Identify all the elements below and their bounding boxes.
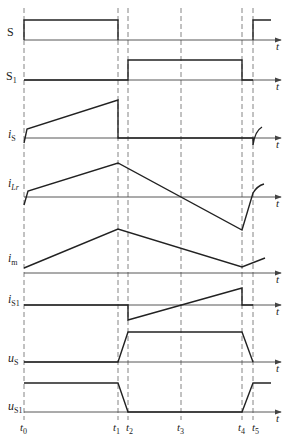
time-label-t4: t4 — [238, 421, 245, 436]
signal-S: S t — [7, 20, 281, 52]
time-label-t1: t1 — [113, 421, 120, 436]
time-label-t2: t2 — [126, 421, 133, 436]
axis-t-label: t — [276, 305, 280, 317]
waveform-S1 — [24, 60, 253, 80]
axis-t-label: t — [276, 40, 280, 52]
label-uS: uS — [8, 351, 18, 367]
axis-t-label: t — [276, 80, 280, 92]
axis-t-label: t — [276, 412, 280, 424]
label-S1: S1 — [6, 69, 17, 85]
signal-uS1: uS1 t — [8, 383, 281, 424]
waveform-uS1 — [24, 383, 271, 412]
signal-im: im t — [8, 229, 281, 285]
waveform-im — [24, 229, 265, 268]
signal-iS1: iS1 t — [8, 288, 281, 320]
waveform-uS — [24, 332, 253, 362]
label-im: im — [8, 251, 18, 267]
timing-diagram: S t S1 t iS t iLr t im t iS1 t u — [0, 0, 295, 445]
label-iS1: iS1 — [8, 292, 20, 308]
axis-t-label: t — [276, 273, 280, 285]
time-guides — [24, 8, 253, 420]
time-label-t5: t5 — [252, 421, 259, 436]
label-iS: iS — [8, 127, 16, 143]
waveform-iLr — [24, 163, 264, 230]
signal-iLr: iLr t — [8, 163, 281, 230]
signal-S1: S1 t — [6, 60, 281, 92]
label-iLr: iLr — [8, 176, 20, 192]
waveform-S — [24, 20, 271, 40]
time-label-t3: t3 — [177, 421, 184, 436]
signal-uS: uS t — [8, 332, 281, 374]
axis-t-label: t — [276, 197, 280, 209]
axis-t-label: t — [276, 362, 280, 374]
time-labels: t0 t1 t2 t3 t4 t5 — [20, 421, 259, 436]
time-label-t0: t0 — [20, 421, 27, 436]
waveform-iS1 — [24, 288, 253, 320]
signal-iS: iS t — [8, 100, 281, 150]
axis-t-label: t — [276, 138, 280, 150]
label-uS1: uS1 — [8, 399, 22, 415]
label-S: S — [7, 25, 14, 39]
